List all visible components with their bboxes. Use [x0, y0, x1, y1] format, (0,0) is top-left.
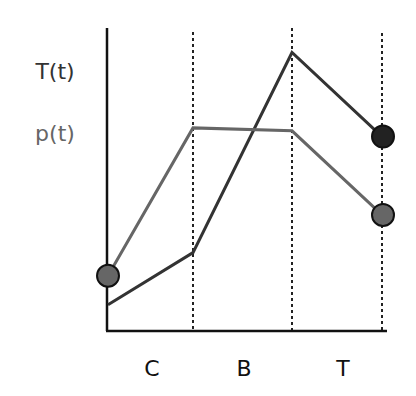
series-marker-p	[97, 265, 119, 287]
category-label-B: B	[236, 356, 251, 381]
phase-dividers	[193, 28, 382, 330]
series-marker-T	[372, 126, 394, 148]
category-label-T: T	[335, 356, 350, 381]
series-label-T: T(t)	[34, 59, 74, 84]
series-marker-p	[372, 204, 394, 226]
series-label-p: p(t)	[35, 121, 75, 146]
series-line-T	[108, 53, 382, 305]
series-lines	[108, 53, 382, 305]
phase-diagram: T(t) p(t) C B T	[0, 0, 416, 396]
category-label-C: C	[144, 356, 159, 381]
